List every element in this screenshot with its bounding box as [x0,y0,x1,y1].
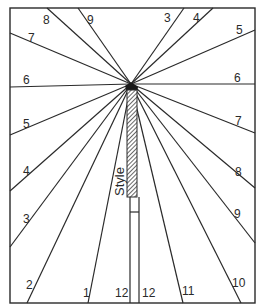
hour-label: 3 [23,212,30,226]
style-label: Style [112,167,127,196]
hour-label: 6 [234,71,241,85]
sundial-diagram: 893475665748392101111212 Style [0,0,267,306]
hour-label: 12 [142,286,156,300]
hour-label: 4 [193,11,200,25]
hour-label: 5 [236,23,243,37]
hour-label: 9 [87,13,94,27]
hour-label: 3 [164,11,171,25]
hour-label: 6 [23,73,30,87]
hour-label: 10 [232,276,246,290]
hour-label: 12 [115,286,129,300]
hour-label: 8 [43,13,50,27]
hour-label: 9 [234,207,241,221]
hour-label: 8 [235,165,242,179]
hour-label: 1 [83,286,90,300]
hour-label: 5 [23,117,30,131]
style-bar [127,90,137,197]
hour-label: 2 [26,278,33,292]
hour-label: 4 [23,164,30,178]
hour-label: 7 [235,114,242,128]
hour-label: 11 [182,284,195,298]
hour-label: 7 [28,31,35,45]
